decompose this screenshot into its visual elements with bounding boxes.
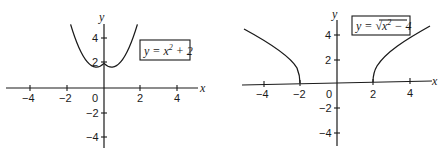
- right-ytick-neg4: −4: [319, 127, 332, 139]
- left-ytick-neg2: −2: [86, 107, 99, 119]
- left-xtick-2: 2: [137, 92, 143, 104]
- right-xtick-2: 2: [370, 88, 376, 100]
- right-ytick-2: 2: [325, 54, 331, 66]
- left-graph: x y −4 −2 0 2 4 4 2 −2 −4 y = x2 + 2: [6, 10, 206, 148]
- left-xtick-neg2: −2: [59, 92, 72, 104]
- left-equation: y = x2 + 2: [143, 43, 193, 58]
- right-curve-left-branch: [244, 29, 300, 83]
- right-xtick-0: 0: [326, 88, 332, 100]
- right-xtick-4: 4: [407, 87, 413, 99]
- left-ytick-4: 4: [92, 32, 98, 44]
- left-y-axis-label: y: [98, 10, 105, 24]
- right-xtick-neg4: −4: [256, 88, 269, 100]
- right-ytick-4: 4: [325, 29, 331, 41]
- left-xtick-4: 4: [174, 92, 180, 104]
- left-ytick-neg4: −4: [86, 131, 99, 143]
- figure: x y −4 −2 0 2 4 4 2 −2 −4 y = x2 + 2 x y: [0, 0, 441, 156]
- right-xtick-neg2: −2: [293, 88, 306, 100]
- left-x-axis-label: x: [199, 81, 206, 95]
- right-graph: x y −4 −2 0 2 4 4 2 −2 −4 y = √x2 − 4: [242, 7, 438, 146]
- right-y-axis-label: y: [331, 7, 338, 21]
- right-ytick-neg2: −2: [319, 102, 332, 114]
- left-xtick-0: 0: [92, 92, 98, 104]
- right-x-axis-label: x: [431, 74, 438, 88]
- left-xtick-neg4: −4: [22, 92, 35, 104]
